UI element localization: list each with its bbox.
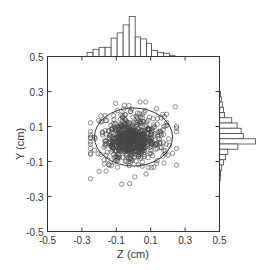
histogram-bar bbox=[220, 134, 244, 139]
histogram-bar bbox=[123, 25, 129, 57]
histogram-bar bbox=[220, 149, 228, 154]
histogram-bar bbox=[117, 33, 123, 57]
x-axis-label: Z (cm) bbox=[117, 248, 149, 260]
histogram-bar bbox=[99, 47, 105, 56]
x-tick-label: 0.1 bbox=[144, 235, 158, 246]
histogram-bar bbox=[220, 144, 238, 149]
histogram-bar bbox=[220, 107, 224, 112]
y-tick-label: -0.5 bbox=[26, 227, 44, 238]
histogram-bar bbox=[220, 139, 256, 144]
x-tick-label: -0.1 bbox=[108, 235, 126, 246]
histogram-bar bbox=[220, 118, 232, 123]
y-tick-label: 0.1 bbox=[30, 122, 44, 133]
histogram-bar bbox=[105, 47, 111, 56]
histogram-bar bbox=[158, 53, 164, 57]
histogram-bar bbox=[93, 49, 99, 56]
histogram-bar bbox=[129, 17, 135, 57]
histogram-bar bbox=[220, 155, 226, 160]
histogram-bar bbox=[140, 39, 146, 57]
histogram-bar bbox=[111, 38, 117, 56]
y-tick-label: 0.3 bbox=[30, 87, 44, 98]
right-histogram bbox=[220, 92, 256, 181]
histogram-bar bbox=[146, 43, 151, 56]
histogram-bar bbox=[87, 53, 93, 57]
histogram-bar bbox=[135, 37, 140, 57]
x-tick-label: 0.3 bbox=[178, 235, 192, 246]
scatter-histogram-chart: -0.5-0.3-0.10.10.30.5 -0.5-0.3-0.10.10.3… bbox=[0, 0, 269, 270]
histogram-bar bbox=[220, 113, 225, 118]
top-histogram bbox=[48, 17, 220, 57]
x-tick-label: 0.5 bbox=[213, 235, 227, 246]
scatter-points bbox=[88, 100, 178, 187]
histogram-bar bbox=[152, 51, 158, 57]
x-tick-label: -0.3 bbox=[73, 235, 91, 246]
histogram-bar bbox=[220, 123, 238, 128]
y-axis-label: Y (cm) bbox=[14, 128, 26, 160]
y-tick-label: 0.5 bbox=[30, 52, 44, 63]
y-tick-label: -0.1 bbox=[26, 157, 44, 168]
histogram-bar bbox=[220, 160, 224, 165]
y-tick-label: -0.3 bbox=[26, 192, 44, 203]
histogram-bar bbox=[220, 128, 242, 133]
